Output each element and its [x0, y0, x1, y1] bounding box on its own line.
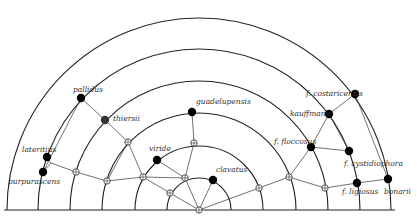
open-node-icon	[125, 139, 131, 145]
taxon-nodes: lateritiuspurpurascenspallidusthiersiivi…	[8, 85, 412, 196]
edge-j_lat-o1	[51, 163, 76, 172]
node-bonarii-icon	[384, 175, 392, 183]
label-f_cystidiophora: f. cystidiophora	[343, 159, 403, 168]
edge-pallidus-purpurascens	[43, 98, 81, 172]
edge-o9-o10	[289, 177, 325, 188]
edge-o7-o6	[185, 143, 194, 178]
open-node-icon	[167, 190, 173, 196]
node-pallidus-icon	[77, 94, 85, 102]
edge-viride-o6	[157, 160, 185, 178]
edge-kauffmanii-f_cystidiophora	[329, 114, 349, 151]
open-node-icon	[286, 174, 292, 180]
arc-2	[102, 113, 296, 210]
edge-o4-o5	[143, 177, 170, 193]
edges	[43, 94, 388, 210]
open-node-icon	[322, 185, 328, 191]
node-viride-icon	[153, 156, 161, 164]
open-node-icon	[104, 178, 110, 184]
arc-4	[38, 49, 360, 210]
open-node-icon	[256, 185, 262, 191]
concentric-arcs	[7, 18, 391, 210]
open-node-icon	[73, 169, 79, 175]
node-purpurascens-icon	[39, 168, 47, 176]
label-clavatus: clavatus	[216, 165, 248, 174]
arc-0	[167, 178, 231, 210]
edge-f_floccosus-f_cystidiophora	[311, 147, 349, 151]
node-f_cystidiophora-icon	[345, 147, 353, 155]
edge-o7-gundelupensis	[192, 112, 194, 143]
label-pallidus: pallidus	[73, 85, 103, 94]
edge-o8-o9	[259, 177, 289, 188]
edge-o2-o4	[107, 177, 143, 181]
node-lateritius-icon	[43, 153, 51, 161]
edge-o4-o6	[143, 177, 185, 178]
label-f_ligiosus: f. ligiosus	[341, 187, 378, 196]
edge-o6-center	[185, 178, 199, 210]
node-gundelupensis-icon	[188, 108, 196, 116]
open-node-icon	[182, 175, 188, 181]
open-node-icon	[191, 140, 197, 146]
label-lateritius: lateritius	[22, 145, 57, 154]
node-thiersii-icon	[101, 116, 109, 124]
open-node-icon	[196, 207, 202, 213]
node-f_ligiosus-icon	[353, 179, 361, 187]
phylogeny-diagram: lateritiuspurpurascenspallidusthiersiivi…	[0, 0, 417, 221]
label-f_costaricensis: f. costaricensis	[305, 89, 363, 98]
label-f_floccosus: f. floccosus	[273, 137, 316, 146]
edge-o5-center	[170, 193, 199, 210]
open-nodes	[73, 139, 328, 213]
label-purpurascens: purpurascens	[8, 177, 60, 186]
edge-o3-o2	[107, 142, 128, 181]
label-kauffmanii: kauffmanii	[290, 109, 331, 118]
edge-o1-o2	[76, 172, 107, 181]
edge-o9-f_floccosus	[289, 147, 311, 177]
label-thiersii: thiersii	[113, 114, 141, 123]
label-gundelupensis: guadelupensis	[196, 97, 251, 106]
open-node-icon	[140, 174, 146, 180]
node-clavatus-icon	[209, 176, 217, 184]
edge-thiersii-o3	[105, 120, 128, 142]
edge-o3-o4	[128, 142, 143, 177]
label-bonarii: bonarii	[384, 187, 412, 196]
edge-f_ligiosus-bonarii	[357, 179, 388, 183]
arc-5	[7, 18, 391, 210]
label-viride: viride	[149, 144, 171, 153]
edge-pallidus-thiersii	[81, 98, 105, 120]
